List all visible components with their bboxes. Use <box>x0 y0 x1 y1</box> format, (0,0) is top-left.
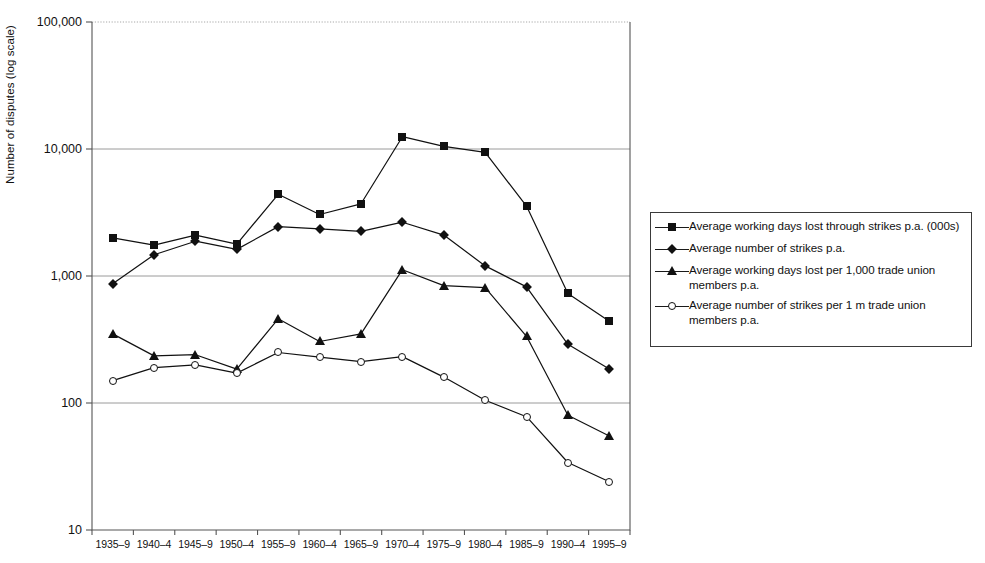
data-point-marker <box>274 348 282 356</box>
series-line-2 <box>113 222 610 369</box>
legend-label: Average working days lost per 1,000 trad… <box>689 263 965 292</box>
data-point-marker <box>398 133 406 141</box>
legend-label: Average number of strikes p.a. <box>689 241 845 256</box>
data-point-marker <box>604 431 614 440</box>
data-point-marker <box>357 200 365 208</box>
series-line-3 <box>113 270 610 436</box>
legend-item[interactable]: Average number of strikes p.a. <box>655 241 965 257</box>
data-point-marker <box>109 234 117 242</box>
legend-marker-open-circle-icon <box>655 299 689 314</box>
legend-marker-filled-square-icon <box>655 220 689 235</box>
data-point-marker <box>273 314 283 323</box>
legend-item[interactable]: Average working days lost through strike… <box>655 219 965 235</box>
data-point-marker <box>398 353 406 361</box>
data-point-marker <box>150 241 158 249</box>
data-point-marker <box>233 369 241 377</box>
data-point-marker <box>108 329 118 338</box>
data-point-marker <box>150 364 158 372</box>
legend-item[interactable]: Average number of strikes per 1 m trade … <box>655 298 965 327</box>
legend-marker-filled-triangle-icon <box>655 264 689 279</box>
legend-marker-filled-diamond-icon <box>655 242 689 257</box>
data-point-marker <box>191 361 199 369</box>
data-point-marker <box>190 350 200 359</box>
legend-item[interactable]: Average working days lost per 1,000 trad… <box>655 263 965 292</box>
data-point-marker <box>481 148 489 156</box>
data-point-marker <box>440 142 448 150</box>
data-point-marker <box>274 190 282 198</box>
data-point-marker <box>440 373 448 381</box>
data-point-marker <box>357 358 365 366</box>
data-point-marker <box>523 202 531 210</box>
data-point-marker <box>563 410 573 419</box>
data-point-marker <box>316 353 324 361</box>
legend: Average working days lost through strike… <box>650 212 972 347</box>
data-point-marker <box>397 265 407 274</box>
data-point-marker <box>356 329 366 338</box>
data-point-marker <box>522 331 532 340</box>
data-point-marker <box>109 377 117 385</box>
data-point-marker <box>315 337 325 346</box>
legend-label: Average number of strikes per 1 m trade … <box>689 298 965 327</box>
legend-label: Average working days lost through strike… <box>689 219 959 234</box>
data-point-marker <box>439 281 449 290</box>
data-point-marker <box>523 413 531 421</box>
data-point-marker <box>480 283 490 292</box>
strike-statistics-chart: Number of disputes (log scale) 100,00010… <box>0 0 985 563</box>
series-line-4 <box>113 353 610 482</box>
data-point-marker <box>605 317 613 325</box>
data-point-marker <box>316 210 324 218</box>
data-point-marker <box>149 351 159 360</box>
data-point-marker <box>564 289 572 297</box>
data-point-marker <box>481 396 489 404</box>
data-point-marker <box>564 459 572 467</box>
data-point-marker <box>605 478 613 486</box>
